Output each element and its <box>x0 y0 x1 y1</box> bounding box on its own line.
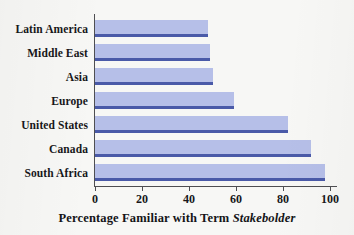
x-axis-title: Percentage Familiar with Term Stakebolde… <box>0 211 354 226</box>
x-axis-title-text: Percentage Familiar with Term <box>59 211 230 225</box>
x-axis-tick-mark <box>330 186 331 191</box>
x-axis-tick-label: 100 <box>321 192 339 207</box>
x-axis-tick-label: 80 <box>277 192 289 207</box>
x-axis-tick-label: 40 <box>183 192 195 207</box>
x-axis-tick-label: 0 <box>92 192 98 207</box>
x-axis-tick-mark <box>142 186 143 191</box>
bar-row: South Africa <box>95 164 330 181</box>
x-axis-tick-mark <box>189 186 190 191</box>
bar-category-label: United States <box>21 119 88 131</box>
bar-category-label: Latin America <box>15 23 88 35</box>
bar-row: Asia <box>95 68 330 85</box>
bar-row: United States <box>95 116 330 133</box>
bar-category-label: South Africa <box>25 167 89 179</box>
bar-category-label: Canada <box>49 143 88 155</box>
bar-chart-figure: Latin AmericaMiddle EastAsiaEuropeUnited… <box>0 0 354 235</box>
bar-middle-east <box>95 44 210 61</box>
plot-area: Latin AmericaMiddle EastAsiaEuropeUnited… <box>95 16 330 185</box>
bar-row: Europe <box>95 92 330 109</box>
bar-south-africa <box>95 164 325 181</box>
x-axis-line <box>94 186 337 187</box>
bar-row: Latin America <box>95 20 330 37</box>
bar-europe <box>95 92 234 109</box>
bar-united-states <box>95 116 288 133</box>
x-axis-tick-mark <box>236 186 237 191</box>
bar-category-label: Asia <box>66 71 88 83</box>
x-axis-tick-mark <box>283 186 284 191</box>
x-axis-tick-label: 20 <box>136 192 148 207</box>
bar-category-label: Middle East <box>27 47 88 59</box>
x-axis-title-emphasis: Stakebolder <box>233 211 296 225</box>
bar-asia <box>95 68 213 85</box>
bar-latin-america <box>95 20 208 37</box>
bar-canada <box>95 140 311 157</box>
bar-row: Canada <box>95 140 330 157</box>
x-axis-tick-label: 60 <box>230 192 242 207</box>
bar-row: Middle East <box>95 44 330 61</box>
x-axis-tick-mark <box>95 186 96 191</box>
bar-category-label: Europe <box>51 95 88 107</box>
